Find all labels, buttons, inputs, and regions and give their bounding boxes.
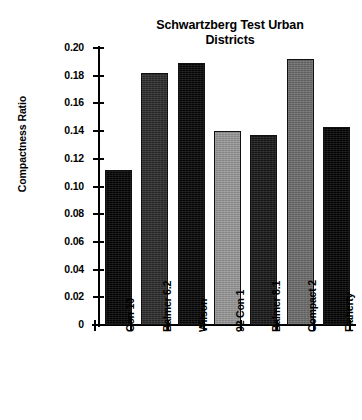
y-axis-tick-label: 0.12: [36, 152, 84, 164]
x-axis-tick: [94, 320, 96, 331]
y-axis-tick-label: 0.06: [36, 235, 84, 247]
y-axis-tick-label: 0.20: [36, 41, 84, 53]
bar-chart: Schwartzberg Test Urban Districts Compac…: [0, 0, 362, 420]
chart-title: Schwartzberg Test Urban Districts: [112, 18, 348, 48]
x-axis-tick-label: Compact 2: [306, 242, 320, 332]
y-axis-tick-label: 0.08: [36, 207, 84, 219]
y-axis-tick-label: 0.14: [36, 124, 84, 136]
x-axis-tick-label: Wilson: [197, 242, 211, 332]
x-axis-tick-label: Balmer 6.2: [161, 242, 175, 332]
chart-title-line-1: Schwartzberg Test Urban: [156, 18, 304, 32]
y-axis-tick-label: 0.18: [36, 69, 84, 81]
y-axis-tick-label: 0.10: [36, 180, 84, 192]
x-axis-tick-label: Flaherty: [343, 242, 357, 332]
y-axis-tick-label: 0.16: [36, 96, 84, 108]
x-axis-tick-label: Con 10: [124, 242, 138, 332]
y-axis-tick-label: 0: [36, 318, 84, 330]
x-axis-tick-label: Balmer 8.1: [270, 242, 284, 332]
y-axis-tick-label: 0.02: [36, 290, 84, 302]
x-axis-tick-label: 92 Con 1: [234, 242, 248, 332]
chart-title-line-2: Districts: [205, 33, 254, 47]
y-axis-tick-label: 0.04: [36, 263, 84, 275]
y-axis-title: Compactness Ratio: [16, 74, 28, 214]
